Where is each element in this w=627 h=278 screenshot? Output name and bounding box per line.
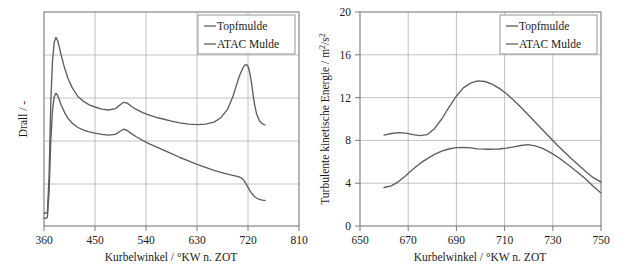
drall-x-tick-2: 540 [137,234,155,246]
tke-x-tick-4: 730 [544,234,562,246]
tke-x-axis-title: Kurbelwinkel / °KW n. ZOT [414,251,546,263]
chart-panel-tke: Topfmulde ATAC Mulde 20 16 12 8 4 0 650 … [313,0,627,278]
tke-y-tick-5: 20 [340,6,352,18]
tke-x-tick-5: 750 [592,234,610,246]
tke-y-tick-0: 0 [345,220,351,232]
tke-legend-label-topfmulde: Topfmulde [519,20,569,33]
drall-x-tickmarks [44,226,299,231]
drall-x-tick-labels: 360 450 540 630 720 810 [35,234,308,246]
drall-curve-atac-mulde [44,93,265,218]
tke-y-axis-title: Turbulente kinetische Energie / m2/s2 [318,33,332,205]
tke-y-tick-2: 8 [345,134,351,146]
drall-x-tick-5: 810 [290,234,308,246]
tke-y-axis-title-main: Turbulente kinetische Energie / m [319,49,332,205]
tke-x-tick-2: 690 [448,234,466,246]
tke-x-tick-3: 710 [496,234,513,246]
tke-y-axis-title-sup2: 2 [318,33,327,37]
tke-legend: Topfmulde ATAC Mulde [500,15,597,54]
drall-legend-label-topfmulde: Topfmulde [217,20,267,33]
tke-y-tick-4: 16 [340,49,352,61]
tke-y-tick-labels: 20 16 12 8 4 0 [340,6,352,232]
tke-x-tick-labels: 650 670 690 710 730 750 [351,234,610,246]
drall-legend: Topfmulde ATAC Mulde [198,15,295,54]
tke-y-tick-1: 4 [345,177,351,189]
drall-y-axis-title: Drall / - [17,101,29,138]
tke-y-tick-3: 12 [340,92,352,104]
tke-curve-atac-mulde [384,145,601,193]
figure-container: Topfmulde ATAC Mulde 360 450 540 630 720… [0,0,627,278]
drall-curve-topfmulde [44,37,265,213]
drall-legend-label-atac-mulde: ATAC Mulde [217,38,279,50]
drall-x-tick-4: 720 [239,234,257,246]
tke-x-tick-0: 650 [351,234,369,246]
tke-legend-label-atac-mulde: ATAC Mulde [519,38,581,50]
drall-x-axis-title: Kurbelwinkel / °KW n. ZOT [105,251,237,263]
drall-x-tick-3: 630 [188,234,206,246]
chart-panel-drall: Topfmulde ATAC Mulde 360 450 540 630 720… [0,0,313,278]
drall-x-tick-0: 360 [35,234,53,246]
drall-plot-svg: Topfmulde ATAC Mulde 360 450 540 630 720… [0,0,313,278]
tke-plot-svg: Topfmulde ATAC Mulde 20 16 12 8 4 0 650 … [313,0,627,278]
tke-x-tick-1: 670 [400,234,418,246]
drall-x-tick-1: 450 [86,234,104,246]
